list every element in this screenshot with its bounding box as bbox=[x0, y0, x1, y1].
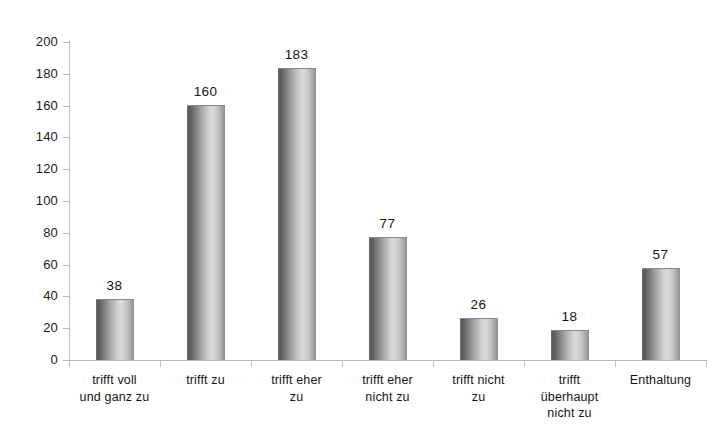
x-axis-category-label: trifft vollund ganz zu bbox=[69, 372, 160, 405]
y-axis-tick-label: 120 bbox=[12, 162, 58, 175]
x-axis-category-label: Enthaltung bbox=[615, 372, 706, 389]
x-axis-tick bbox=[69, 361, 70, 367]
category-label-line: zu bbox=[433, 389, 524, 406]
bar[interactable] bbox=[642, 268, 680, 360]
x-axis-tick bbox=[160, 361, 161, 367]
y-axis-tick bbox=[63, 233, 70, 234]
y-axis-tick-label: 80 bbox=[12, 226, 58, 239]
category-label-line: trifft nicht bbox=[433, 372, 524, 389]
x-axis-category-label: trifft zu bbox=[160, 372, 251, 389]
category-label-line: trifft voll bbox=[69, 372, 160, 389]
bar-value-label: 160 bbox=[194, 85, 218, 99]
bar-value-label: 77 bbox=[380, 217, 396, 231]
x-axis-tick bbox=[706, 361, 707, 367]
x-axis-category-label: trifft nichtzu bbox=[433, 372, 524, 405]
bar-value-label: 183 bbox=[285, 48, 309, 62]
y-axis-tick bbox=[63, 169, 70, 170]
y-axis-tick bbox=[63, 201, 70, 202]
y-axis-tick bbox=[63, 296, 70, 297]
bar-group: 183 bbox=[251, 30, 342, 360]
category-label-line: nicht zu bbox=[342, 389, 433, 406]
bar[interactable] bbox=[278, 68, 316, 360]
bar[interactable] bbox=[551, 330, 589, 360]
bar-value-label: 57 bbox=[653, 248, 669, 262]
y-axis-tick bbox=[63, 360, 70, 361]
category-label-line: überhaupt bbox=[524, 389, 615, 406]
y-axis-tick bbox=[63, 106, 70, 107]
y-axis-tick bbox=[63, 265, 70, 266]
x-axis-tick bbox=[615, 361, 616, 367]
category-label-line: zu bbox=[251, 389, 342, 406]
plot-area: 3816018377261857 bbox=[69, 30, 706, 360]
bar-chart: 020406080100120140160180200 381601837726… bbox=[0, 0, 718, 445]
bar-group: 57 bbox=[615, 30, 706, 360]
x-axis-tick bbox=[251, 361, 252, 367]
y-axis-tick bbox=[63, 42, 70, 43]
x-axis-tick bbox=[524, 361, 525, 367]
y-axis-tick bbox=[63, 328, 70, 329]
bar-value-label: 18 bbox=[562, 310, 578, 324]
x-axis-category-label: trifftüberhauptnicht zu bbox=[524, 372, 615, 422]
category-label-line: trifft eher bbox=[251, 372, 342, 389]
category-label-line: Enthaltung bbox=[615, 372, 706, 389]
bar-group: 77 bbox=[342, 30, 433, 360]
y-axis-tick-label: 140 bbox=[12, 130, 58, 143]
category-label-line: trifft bbox=[524, 372, 615, 389]
bar[interactable] bbox=[460, 318, 498, 360]
y-axis-tick-label: 180 bbox=[12, 67, 58, 80]
category-label-line: trifft eher bbox=[342, 372, 433, 389]
y-axis-tick-label: 100 bbox=[12, 194, 58, 207]
category-label-line: nicht zu bbox=[524, 405, 615, 422]
category-label-line: trifft zu bbox=[160, 372, 251, 389]
y-axis-tick bbox=[63, 137, 70, 138]
y-axis-tick-label: 160 bbox=[12, 99, 58, 112]
category-label-line: und ganz zu bbox=[69, 389, 160, 406]
bar-group: 38 bbox=[69, 30, 160, 360]
y-axis-tick-label: 0 bbox=[12, 353, 58, 366]
bar[interactable] bbox=[96, 299, 134, 360]
y-axis-tick bbox=[63, 74, 70, 75]
y-axis-tick-label: 200 bbox=[12, 35, 58, 48]
bar-group: 160 bbox=[160, 30, 251, 360]
x-axis-category-label: trifft eherzu bbox=[251, 372, 342, 405]
bar-group: 26 bbox=[433, 30, 524, 360]
bar[interactable] bbox=[187, 105, 225, 360]
bar-value-label: 26 bbox=[471, 298, 487, 312]
y-axis-tick-label: 20 bbox=[12, 321, 58, 334]
bar-value-label: 38 bbox=[107, 279, 123, 293]
x-axis-tick bbox=[342, 361, 343, 367]
y-axis-tick-label: 60 bbox=[12, 258, 58, 271]
y-axis-tick-label: 40 bbox=[12, 289, 58, 302]
x-axis-line bbox=[69, 360, 707, 361]
bar-group: 18 bbox=[524, 30, 615, 360]
x-axis-tick bbox=[433, 361, 434, 367]
bar[interactable] bbox=[369, 237, 407, 360]
x-axis-category-label: trifft ehernicht zu bbox=[342, 372, 433, 405]
